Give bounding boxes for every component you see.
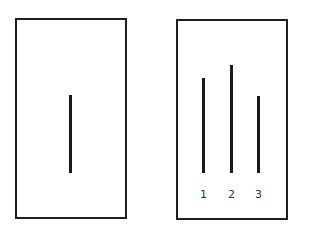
line-label-2: 2 bbox=[226, 189, 238, 201]
comparison-line-3 bbox=[257, 96, 260, 173]
comparison-line-2 bbox=[230, 65, 233, 173]
reference-line bbox=[69, 95, 72, 173]
line-label-3: 3 bbox=[253, 189, 265, 201]
comparison-line-1 bbox=[202, 78, 205, 173]
line-label-1: 1 bbox=[198, 189, 210, 201]
